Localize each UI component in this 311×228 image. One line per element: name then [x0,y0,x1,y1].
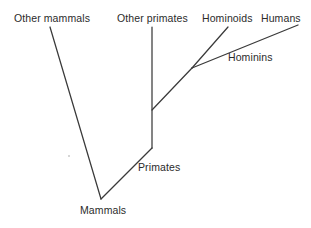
cladogram-branches-canvas [0,0,311,228]
branch-other-mammals [50,27,101,199]
label-primates: Primates [138,161,180,173]
label-humans: Humans [261,12,301,24]
label-other-mammals: Other mammals [14,12,90,24]
branch-hominoids [192,27,228,68]
cladogram-diagram: Other mammals Other primates Hominoids H… [0,0,311,228]
label-hominoids: Hominoids [202,12,253,24]
scan-artifact-speck [68,155,70,157]
branch-mammals-to-primates [101,148,152,199]
label-mammals: Mammals [80,204,126,216]
label-other-primates: Other primates [117,12,188,24]
label-hominins: Hominins [228,51,273,63]
branch-primates-to-hominoids [152,68,192,110]
